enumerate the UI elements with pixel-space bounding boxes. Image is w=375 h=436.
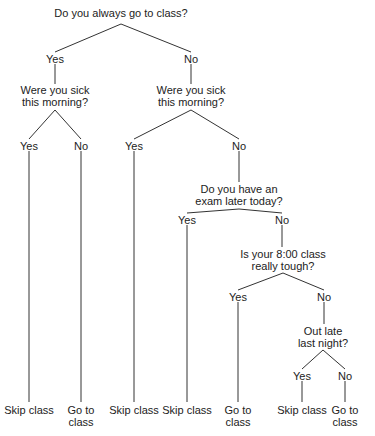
leaf-outcome: Go to class: [225, 404, 252, 428]
leaf-outcome: Skip class: [277, 404, 327, 416]
answer-label: No: [232, 140, 246, 152]
question-node: Is your 8:00 class really tough?: [240, 248, 326, 272]
tree-edge: [239, 209, 282, 213]
answer-label: No: [275, 214, 289, 226]
answer-label: Yes: [178, 214, 196, 226]
tree-edge: [134, 110, 191, 139]
tree-edge: [302, 350, 323, 369]
question-node: Out late last night?: [298, 325, 348, 349]
tree-edge: [55, 24, 121, 52]
answer-label: No: [184, 53, 198, 65]
tree-edge: [121, 24, 191, 52]
question-node: Were you sick this morning?: [157, 84, 226, 108]
question-node: Were you sick this morning?: [21, 84, 90, 108]
answer-label: Yes: [46, 53, 64, 65]
leaf-outcome: Skip class: [109, 404, 159, 416]
leaf-outcome: Go to class: [68, 404, 95, 428]
tree-edge: [283, 273, 324, 290]
answer-label: No: [338, 370, 352, 382]
tree-edge: [187, 209, 239, 213]
tree-edge: [29, 110, 55, 139]
answer-label: Yes: [293, 370, 311, 382]
leaf-outcome: Skip class: [4, 404, 54, 416]
answer-label: No: [317, 291, 331, 303]
leaf-outcome: Skip class: [162, 404, 212, 416]
question-node: Do you always go to class?: [54, 7, 187, 19]
answer-label: No: [74, 140, 88, 152]
answer-label: Yes: [125, 140, 143, 152]
answer-label: Yes: [229, 291, 247, 303]
tree-edge: [191, 110, 239, 139]
leaf-outcome: Go to class: [332, 404, 359, 428]
tree-edge: [55, 110, 81, 139]
tree-edge: [238, 273, 283, 290]
answer-label: Yes: [20, 140, 38, 152]
question-node: Do you have an exam later today?: [195, 183, 282, 207]
tree-edge: [323, 350, 345, 369]
